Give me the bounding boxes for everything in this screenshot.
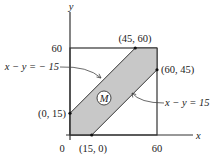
y-axis-label: y: [68, 1, 74, 12]
line-label-pos15: x − y = 15: [164, 97, 210, 108]
point-label-60-45: (60, 45): [161, 64, 195, 76]
leader-line-neg15: [60, 67, 101, 78]
x-axis-label: x: [195, 130, 201, 141]
x-tick-60: 60: [152, 143, 163, 154]
leader-line-pos15: [132, 93, 164, 103]
line-label-neg15: x − y = − 15: [4, 61, 59, 72]
point-0-15: [68, 112, 71, 115]
point-label-0-15: (0, 15): [38, 108, 66, 120]
point-15-0: [90, 133, 93, 136]
point-label-15-0: (15, 0): [79, 143, 107, 155]
y-tick-60: 60: [52, 43, 63, 54]
diagram-canvas: M y x 60 60 0 (0, 15) (15, 0) (45, 60) (…: [0, 0, 214, 160]
origin-label: 0: [59, 143, 64, 154]
region-label: M: [99, 93, 110, 104]
region-m: [70, 48, 157, 135]
point-label-45-60: (45, 60): [118, 33, 152, 45]
point-45-60: [134, 46, 137, 49]
point-60-45: [155, 68, 158, 71]
